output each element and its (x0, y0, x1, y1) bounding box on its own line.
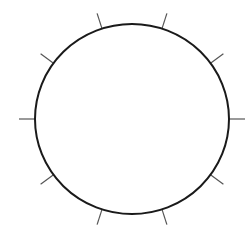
tick-mark (41, 175, 54, 184)
radial-ticks (19, 13, 245, 224)
circle-diagram (0, 0, 252, 236)
tick-mark (97, 13, 102, 28)
tick-mark (162, 209, 167, 224)
tick-mark (41, 54, 54, 63)
tick-mark (97, 209, 102, 224)
tick-mark (162, 13, 167, 28)
circle-outline (35, 24, 229, 214)
tick-mark (211, 175, 224, 184)
tick-mark (211, 54, 224, 63)
